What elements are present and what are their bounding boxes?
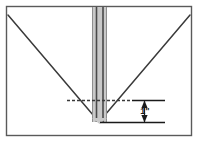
technical-diagram-figure: 1" <box>0 0 198 142</box>
dimension-label: 1" <box>140 106 149 116</box>
vertical-blade-strip <box>92 7 107 122</box>
diagram-canvas: 1" <box>0 0 198 142</box>
